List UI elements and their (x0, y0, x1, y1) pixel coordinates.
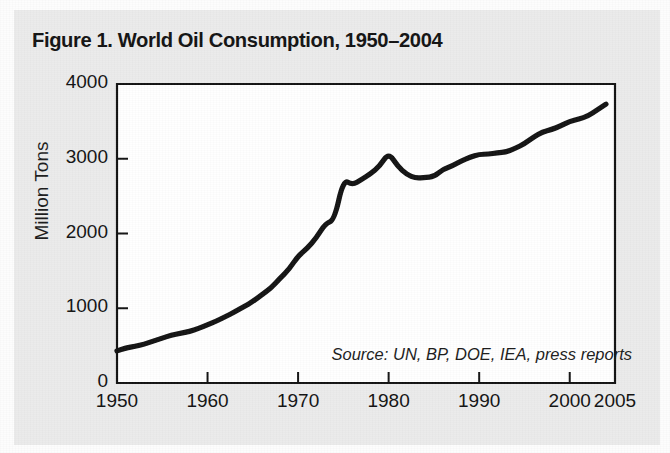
page-margin-left (0, 0, 14, 453)
y-tick-label-3000: 3000 (66, 146, 108, 168)
plot-background (117, 84, 615, 383)
x-tick-label-1990: 1990 (444, 390, 514, 412)
y-tick-label-1000: 1000 (66, 295, 108, 317)
source-note: Source: UN, BP, DOE, IEA, press reports (332, 345, 632, 364)
y-tick-label-2000: 2000 (66, 221, 108, 243)
x-tick-label-1970: 1970 (263, 390, 333, 412)
page-margin-top (0, 0, 670, 10)
figure-container: Figure 1. World Oil Consumption, 1950–20… (0, 0, 670, 453)
y-tick-label-0: 0 (97, 370, 108, 392)
x-tick-label-1980: 1980 (354, 390, 424, 412)
page-margin-right (660, 0, 670, 453)
plot-area: Million Tons 01000200030004000 195019601… (0, 0, 670, 453)
x-tick-label-1950: 1950 (82, 390, 152, 412)
x-tick-label-1960: 1960 (173, 390, 243, 412)
y-tick-label-4000: 4000 (66, 71, 108, 93)
y-axis-title: Million Tons (31, 111, 53, 271)
page-margin-bottom (0, 445, 670, 453)
x-tick-label-2005: 2005 (580, 390, 650, 412)
